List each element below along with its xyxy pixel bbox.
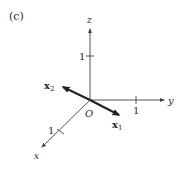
z-axis: 1 z xyxy=(79,15,94,100)
vector-x2-arrow xyxy=(63,87,90,100)
vector-x1-arrow xyxy=(90,100,119,115)
vector-x1-label-sub: 1 xyxy=(118,124,122,132)
vector-x2-label: x2 xyxy=(44,80,54,93)
x-axis-line xyxy=(42,100,90,147)
x-axis-label: x xyxy=(34,151,39,161)
y-axis-tick-label: 1 xyxy=(133,105,139,116)
y-axis-label: y xyxy=(167,95,174,106)
panel-label: (c) xyxy=(9,10,24,23)
3d-coordinate-diagram: (c) 1 z 1 y 1 x x2 x1 O xyxy=(0,0,187,169)
z-axis-label: z xyxy=(86,15,92,25)
vector-x2: x2 xyxy=(44,80,90,100)
vector-x1-label: x1 xyxy=(112,119,122,132)
x-axis-tick-label: 1 xyxy=(48,125,54,136)
vector-x2-label-sub: 2 xyxy=(50,85,54,93)
x-axis: 1 x xyxy=(34,100,90,161)
origin-label: O xyxy=(85,108,93,119)
z-axis-tick-label: 1 xyxy=(79,51,85,62)
vector-x1: x1 xyxy=(90,100,122,132)
